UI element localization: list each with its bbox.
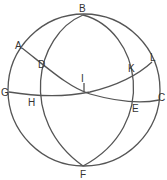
sphere-diagram: B A D L K I G H C E F bbox=[0, 0, 167, 180]
label-c: C bbox=[158, 92, 165, 103]
label-h: H bbox=[28, 97, 35, 108]
label-e: E bbox=[132, 103, 139, 114]
label-d: D bbox=[38, 59, 45, 70]
label-f: F bbox=[80, 169, 86, 180]
label-g: G bbox=[1, 87, 9, 98]
label-b: B bbox=[79, 3, 86, 14]
label-a: A bbox=[15, 40, 22, 51]
label-i: I bbox=[81, 73, 84, 84]
label-l: L bbox=[150, 52, 156, 63]
label-k: K bbox=[128, 63, 135, 74]
arc-bdhf bbox=[40, 15, 83, 166]
arc-adic bbox=[22, 48, 159, 102]
arc-bkef bbox=[83, 15, 134, 166]
